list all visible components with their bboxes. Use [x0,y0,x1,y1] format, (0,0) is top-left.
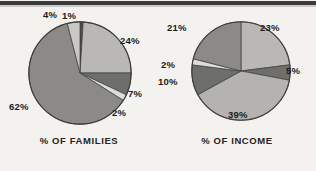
pie-slice-label: 1% [62,10,76,21]
top-rule-shadow [0,5,316,7]
pie-slice-label: 23% [260,22,280,33]
pie-slice-label: 62% [9,101,29,112]
pie-chart-figure: % OF FAMILIES 4%1%24%7%2%62% % OF INCOME… [0,0,316,171]
panel-families: % OF FAMILIES 4%1%24%7%2%62% [0,9,158,171]
pie-slice [80,22,131,73]
pie-income-svg [191,21,291,121]
pie-slice-label: 10% [158,76,178,87]
pie-slice-label: 21% [167,22,187,33]
pie-slice-label: 2% [112,107,126,118]
pie-income [191,21,291,121]
caption-income: % OF INCOME [158,135,316,146]
pie-slice-label: 2% [161,59,175,70]
pie-slice-label: 5% [286,65,300,76]
pie-slice-label: 7% [128,88,142,99]
pie-slice-label: 39% [228,109,248,120]
pie-slice-label: 24% [120,35,140,46]
caption-families: % OF FAMILIES [0,135,158,146]
panel-income: % OF INCOME 23%5%39%10%2%21% [158,9,316,171]
pie-slice-label: 4% [43,9,57,20]
